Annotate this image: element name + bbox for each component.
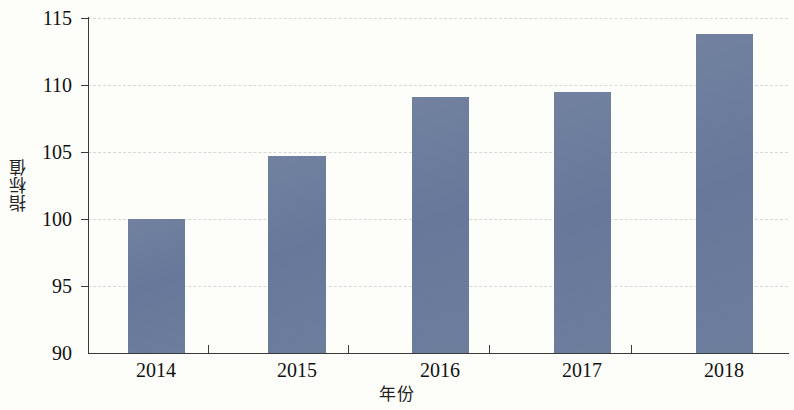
x-axis-title: 年份 <box>0 380 794 405</box>
y-tick-label-90: 90 <box>28 343 72 363</box>
x-tick-1 <box>208 345 209 354</box>
y-tick-105 <box>81 152 89 153</box>
bar-2015 <box>268 156 326 353</box>
y-tick-label-95: 95 <box>28 276 72 296</box>
x-tick-label-2016: 2016 <box>380 358 500 382</box>
y-tick-95 <box>81 286 89 287</box>
y-tick-label-105: 105 <box>28 142 72 162</box>
x-tick-label-2014: 2014 <box>96 358 216 382</box>
bar-2017 <box>554 92 611 353</box>
y-axis-title-text: 指标值 <box>5 158 30 212</box>
bar-2018 <box>696 34 753 353</box>
x-tick-label-2017: 2017 <box>522 358 642 382</box>
gridline-115 <box>88 18 788 19</box>
x-tick-2 <box>348 345 349 354</box>
gridline-110 <box>88 85 788 86</box>
y-tick-100 <box>81 219 89 220</box>
bar-chart: 指标值 115 110 105 100 95 90 2014 2015 2016… <box>0 0 794 410</box>
y-tick-110 <box>81 85 89 86</box>
y-tick-label-110: 110 <box>28 75 72 95</box>
y-tick-label-100: 100 <box>28 209 72 229</box>
x-tick-4 <box>631 345 632 354</box>
bar-2014 <box>128 219 185 353</box>
x-tick-3 <box>489 345 490 354</box>
x-axis-line <box>88 353 789 354</box>
y-axis-title: 指标值 <box>2 120 32 250</box>
y-axis-line <box>88 17 89 354</box>
y-tick-115 <box>81 18 89 19</box>
x-tick-label-2015: 2015 <box>237 358 357 382</box>
bar-2016 <box>412 97 469 353</box>
x-tick-label-2018: 2018 <box>664 358 784 382</box>
y-tick-label-115: 115 <box>28 8 72 28</box>
plot-area <box>88 18 788 353</box>
